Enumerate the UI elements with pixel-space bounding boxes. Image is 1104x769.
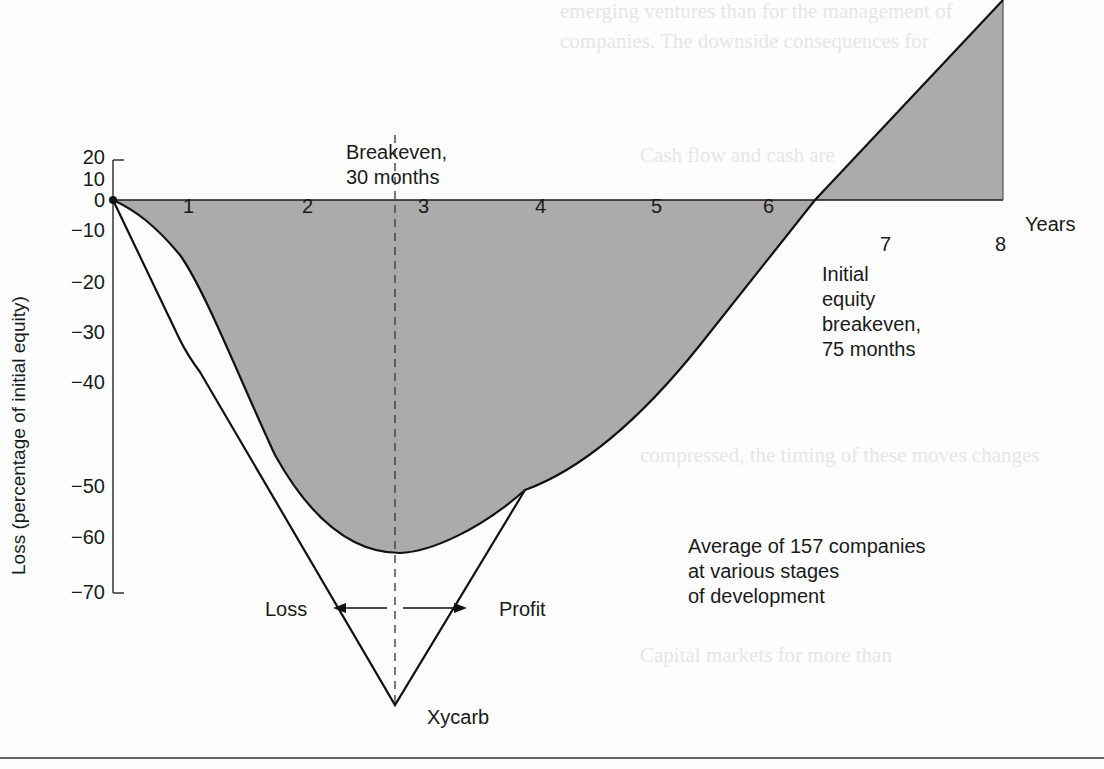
equity-breakeven-label: 75 months — [822, 337, 915, 361]
equity-breakeven-label: Initial — [822, 262, 869, 286]
x-tick: 6 — [763, 194, 774, 218]
x-tick: 3 — [418, 194, 429, 218]
xycarb-label: Xycarb — [427, 705, 489, 729]
y-tick: 20 — [45, 145, 105, 169]
y-axis-label: Loss (percentage of initial equity) — [8, 296, 30, 575]
average-label: Average of 157 companies — [688, 534, 926, 558]
y-tick: 0 — [45, 188, 105, 212]
y-tick: −40 — [45, 370, 105, 394]
profit-arrowhead — [454, 603, 467, 613]
average-label: of development — [688, 584, 825, 608]
chart-canvas — [0, 0, 1104, 769]
equity-breakeven-label: breakeven, — [822, 312, 921, 336]
profit-label: Profit — [499, 597, 546, 621]
y-tick: −60 — [45, 525, 105, 549]
x-axis-label: Years — [1025, 212, 1075, 236]
breakeven-label: 30 months — [346, 165, 439, 189]
equity-breakeven-label: equity — [822, 287, 875, 311]
y-tick: −70 — [45, 580, 105, 604]
x-tick: 2 — [302, 194, 313, 218]
x-tick: 8 — [995, 232, 1006, 256]
x-tick: 4 — [535, 194, 546, 218]
y-tick: −30 — [45, 320, 105, 344]
origin-point — [109, 196, 117, 204]
x-tick: 5 — [651, 194, 662, 218]
y-tick: −20 — [45, 270, 105, 294]
loss-label: Loss — [265, 597, 307, 621]
y-tick: −50 — [45, 474, 105, 498]
breakeven-label: Breakeven, — [346, 140, 447, 164]
x-tick: 1 — [183, 194, 194, 218]
average-label: at various stages — [688, 559, 839, 583]
y-tick: −10 — [45, 218, 105, 242]
shaded-area-lower — [113, 200, 815, 553]
x-tick: 7 — [880, 232, 891, 256]
